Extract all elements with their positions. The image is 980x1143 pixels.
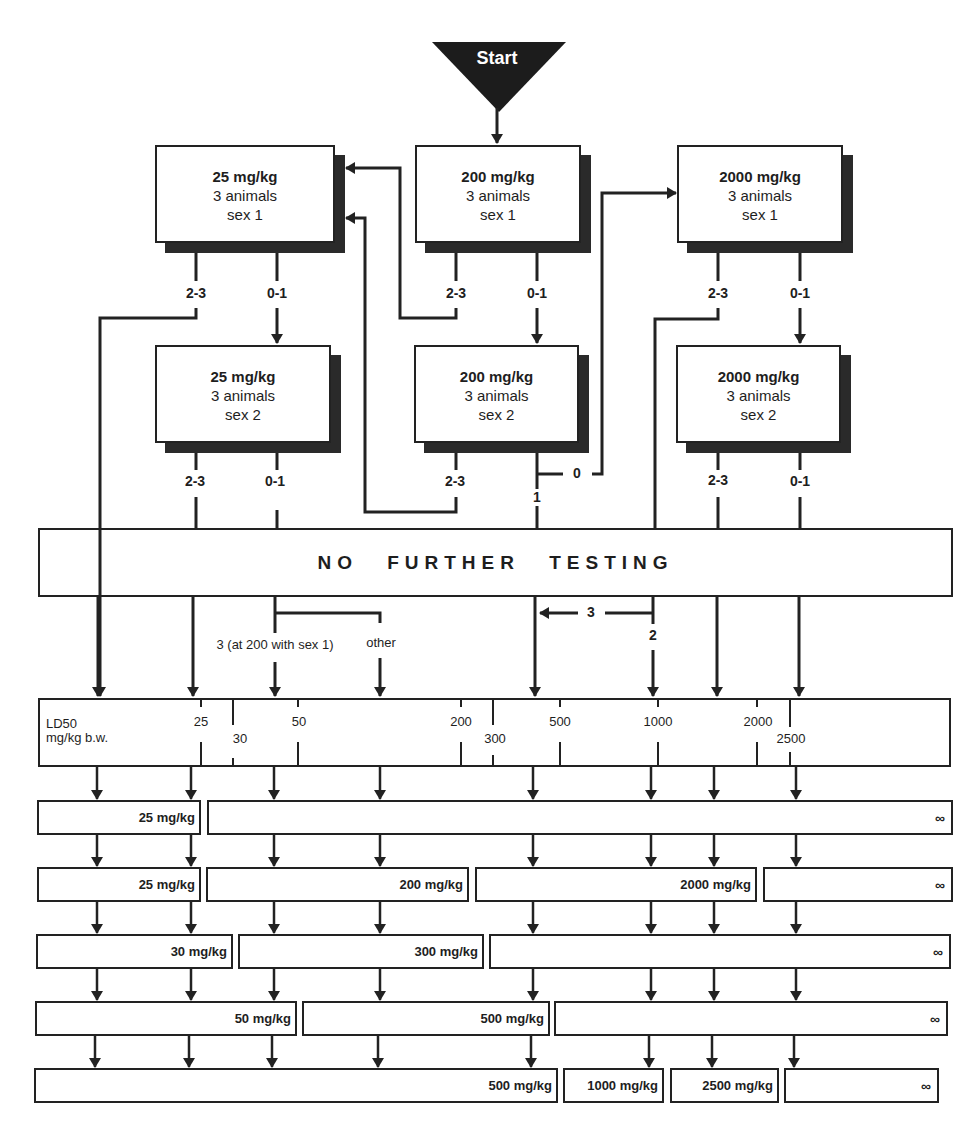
branch-label: 0-1: [264, 473, 286, 489]
result-box: ∞: [784, 1068, 939, 1103]
result-box: 200 mg/kg: [206, 867, 469, 902]
branch-label: 0-1: [526, 285, 548, 301]
animals-label: 3 animals: [464, 386, 528, 405]
step-box-200-sex1: 200 mg/kg 3 animals sex 1: [415, 145, 581, 243]
result-label: 1000 mg/kg: [587, 1078, 658, 1093]
branch-label-zero: 0: [572, 465, 582, 481]
result-label: 2000 mg/kg: [680, 877, 751, 892]
result-box: ∞: [207, 800, 953, 835]
result-label: 50 mg/kg: [235, 1011, 291, 1026]
branch-label: 2-3: [707, 285, 729, 301]
ld50-title: LD50 mg/kg b.w.: [46, 717, 108, 745]
ld50-tick-label: 1000: [644, 714, 673, 729]
result-label: 500 mg/kg: [480, 1011, 544, 1026]
sex-label: sex 2: [225, 405, 261, 424]
infinity-symbol: ∞: [921, 1078, 933, 1094]
branch-label: 2-3: [184, 473, 206, 489]
branch-label: 0-1: [266, 285, 288, 301]
result-box: 50 mg/kg: [35, 1001, 297, 1036]
result-label: 25 mg/kg: [139, 810, 195, 825]
result-box: 500 mg/kg: [34, 1068, 558, 1103]
condition-label-other: other: [366, 635, 396, 650]
ld50-tick-label: 30: [233, 731, 247, 746]
dose-label: 2000 mg/kg: [718, 367, 800, 386]
result-label: 25 mg/kg: [139, 877, 195, 892]
result-box: 25 mg/kg: [37, 800, 201, 835]
sex-label: sex 1: [227, 205, 263, 224]
result-box: ∞: [763, 867, 953, 902]
animals-label: 3 animals: [213, 186, 277, 205]
ld50-tick-label: 25: [194, 714, 208, 729]
infinity-symbol: ∞: [930, 1011, 942, 1027]
sex-label: sex 2: [479, 405, 515, 424]
ld50-title-line2: mg/kg b.w.: [46, 731, 108, 745]
branch-label-one: 1: [532, 489, 542, 505]
ld50-title-line1: LD50: [46, 717, 108, 731]
animals-label: 3 animals: [728, 186, 792, 205]
step-box-200-sex2: 200 mg/kg 3 animals sex 2: [414, 345, 579, 443]
infinity-symbol: ∞: [935, 877, 947, 893]
ld50-tick-label: 50: [292, 714, 306, 729]
condition-label: 3 (at 200 with sex 1): [216, 637, 333, 652]
dose-label: 200 mg/kg: [461, 167, 534, 186]
result-box: 25 mg/kg: [37, 867, 201, 902]
step-box-25-sex2: 25 mg/kg 3 animals sex 2: [155, 345, 331, 443]
result-label: 300 mg/kg: [414, 944, 478, 959]
animals-label: 3 animals: [211, 386, 275, 405]
result-box: 1000 mg/kg: [563, 1068, 664, 1103]
result-box: 30 mg/kg: [36, 934, 233, 969]
result-label: 500 mg/kg: [488, 1078, 552, 1093]
dose-label: 200 mg/kg: [460, 367, 533, 386]
branch-label: 2-3: [445, 285, 467, 301]
ld50-tick-label: 2500: [777, 731, 806, 746]
branch-label: 2-3: [707, 472, 729, 488]
result-box: ∞: [489, 934, 951, 969]
result-label: 2500 mg/kg: [702, 1078, 773, 1093]
step-box-2000-sex1: 2000 mg/kg 3 animals sex 1: [677, 145, 843, 243]
result-box: 2500 mg/kg: [670, 1068, 779, 1103]
result-box: 2000 mg/kg: [475, 867, 757, 902]
ld50-tick-label: 2000: [744, 714, 773, 729]
branch-label-three: 3: [586, 604, 596, 620]
branch-label: 0-1: [789, 285, 811, 301]
dose-label: 25 mg/kg: [210, 367, 275, 386]
dose-label: 2000 mg/kg: [719, 167, 801, 186]
result-box: ∞: [554, 1001, 948, 1036]
step-box-25-sex1: 25 mg/kg 3 animals sex 1: [155, 145, 335, 243]
result-box: 500 mg/kg: [302, 1001, 550, 1036]
infinity-symbol: ∞: [933, 944, 945, 960]
dose-label: 25 mg/kg: [212, 167, 277, 186]
animals-label: 3 animals: [466, 186, 530, 205]
infinity-symbol: ∞: [935, 810, 947, 826]
ld50-tick-label: 300: [484, 731, 506, 746]
sex-label: sex 1: [480, 205, 516, 224]
ld50-tick-label: 500: [549, 714, 571, 729]
no-further-testing-bar: NO FURTHER TESTING: [38, 528, 953, 597]
branch-label-two: 2: [648, 627, 658, 643]
no-further-testing-label: NO FURTHER TESTING: [317, 552, 673, 574]
branch-label: 2-3: [444, 473, 466, 489]
ld50-tick-label: 200: [450, 714, 472, 729]
step-box-2000-sex2: 2000 mg/kg 3 animals sex 2: [676, 345, 841, 443]
result-box: 300 mg/kg: [238, 934, 484, 969]
start-label: Start: [462, 48, 532, 69]
branch-label: 0-1: [789, 473, 811, 489]
branch-label: 2-3: [185, 285, 207, 301]
animals-label: 3 animals: [726, 386, 790, 405]
result-label: 30 mg/kg: [171, 944, 227, 959]
sex-label: sex 2: [741, 405, 777, 424]
result-label: 200 mg/kg: [399, 877, 463, 892]
sex-label: sex 1: [742, 205, 778, 224]
